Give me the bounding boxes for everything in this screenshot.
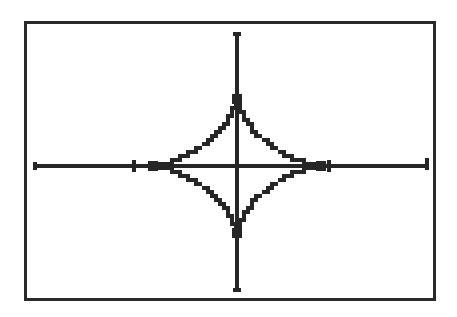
calculator-screenshot: x^(2/3) + y^(2/3) = a^(2/3) astroid [0, 0, 457, 317]
calculator-screen-border [24, 21, 436, 301]
